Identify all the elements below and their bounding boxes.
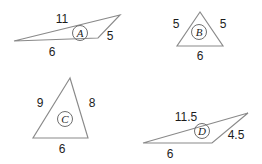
side-label-a-top: 11: [56, 12, 69, 26]
side-label-a-right: 5: [107, 29, 114, 43]
triangle-badge-letter-c: C: [61, 112, 69, 124]
triangle-figure: 11 5 6 A 5 5 6 B 9 8 6 C 11.5 4.: [0, 0, 262, 164]
triangle-group-c: 9 8 6 C: [33, 78, 96, 156]
triangle-group-d: 11.5 4.5 6 D: [143, 110, 248, 161]
triangle-badge-letter-b: B: [196, 25, 203, 37]
side-label-d-bottom: 6: [167, 147, 174, 161]
side-label-c-left: 9: [37, 96, 44, 110]
side-label-c-bottom: 6: [59, 142, 66, 156]
side-label-a-bottom: 6: [49, 45, 56, 59]
side-label-b-left: 5: [173, 17, 180, 31]
figure-canvas: 11 5 6 A 5 5 6 B 9 8 6 C 11.5 4.: [0, 0, 262, 164]
side-label-d-top: 11.5: [175, 110, 198, 124]
side-label-c-right: 8: [89, 96, 96, 110]
side-label-b-bottom: 6: [197, 49, 204, 63]
triangle-group-a: 11 5 6 A: [14, 12, 120, 59]
triangle-group-b: 5 5 6 B: [173, 12, 227, 63]
side-label-b-right: 5: [220, 17, 227, 31]
side-label-d-right: 4.5: [228, 128, 245, 142]
triangle-badge-letter-d: D: [197, 124, 206, 136]
triangle-badge-letter-a: A: [76, 26, 84, 38]
